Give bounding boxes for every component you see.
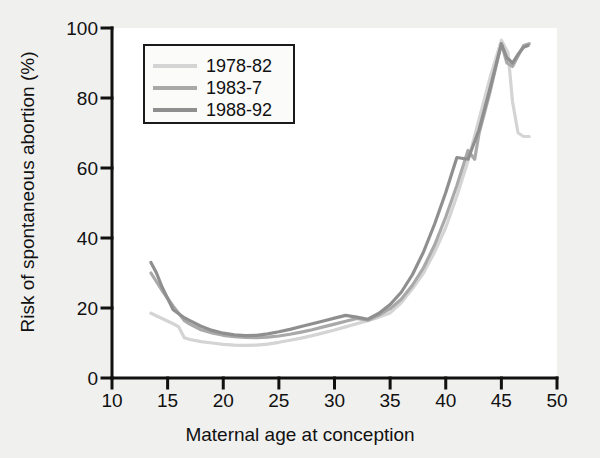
legend-label: 1988-92 <box>206 101 272 119</box>
x-tick-label: 30 <box>313 390 357 412</box>
legend-swatch-line-icon <box>153 108 197 112</box>
legend-entry: 1988-92 <box>153 98 287 122</box>
x-tick-label: 15 <box>146 390 190 412</box>
x-axis-title: Maternal age at conception <box>0 424 600 446</box>
legend-label: 1978-82 <box>206 57 272 75</box>
legend-label: 1983-7 <box>206 79 262 97</box>
chart-legend: 1978-821983-71988-92 <box>143 44 295 124</box>
y-tick-label: 60 <box>54 158 98 180</box>
y-tick-label: 0 <box>54 368 98 390</box>
x-tick-label: 35 <box>368 390 412 412</box>
x-tick-label: 10 <box>90 390 134 412</box>
x-tick-label: 45 <box>479 390 523 412</box>
y-axis-title: Risk of spontaneous abortion (%) <box>17 27 39 357</box>
legend-entry: 1983-7 <box>153 76 287 100</box>
x-tick-label: 40 <box>424 390 468 412</box>
x-tick-label: 20 <box>201 390 245 412</box>
x-tick-label: 50 <box>535 390 579 412</box>
y-tick-label: 80 <box>54 88 98 110</box>
y-tick-label: 40 <box>54 228 98 250</box>
y-tick-label: 100 <box>54 18 98 40</box>
legend-swatch-line-icon <box>153 86 197 90</box>
y-tick-label: 20 <box>54 298 98 320</box>
legend-swatch-line-icon <box>153 64 197 68</box>
x-tick-label: 25 <box>257 390 301 412</box>
chart-figure: 020406080100 101520253035404550 Risk of … <box>0 0 600 458</box>
legend-entry: 1978-82 <box>153 54 287 78</box>
x-tick-label-group: 101520253035404550 <box>0 390 600 416</box>
